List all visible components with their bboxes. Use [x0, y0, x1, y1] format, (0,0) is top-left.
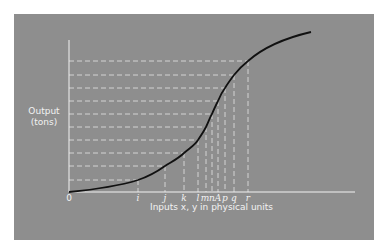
tick-label-i: i — [137, 193, 140, 203]
total-product-curve — [69, 32, 311, 192]
origin-label: 0 — [66, 193, 72, 203]
y-axis-label-line2: (tons) — [24, 117, 64, 128]
horizontal-guide-lines — [69, 61, 248, 180]
x-axis-label: Inputs x, y in physical units — [150, 202, 273, 213]
y-axis-label-line1: Output — [24, 106, 64, 117]
y-axis-label: Output (tons) — [24, 106, 64, 128]
